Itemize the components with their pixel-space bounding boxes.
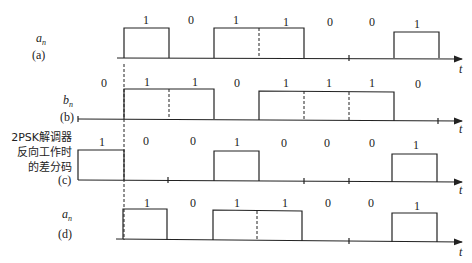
row-a-bit: 1 <box>283 15 289 29</box>
row-a-pulse-1 <box>124 28 169 58</box>
row-a-label: (a) <box>32 48 45 62</box>
row-c-waveform: 2PSK解调器 反向工作时 的差分码 (c) 1 0 0 1 0 0 0 1 t <box>11 130 463 197</box>
row-d-bit: 1 <box>144 196 150 210</box>
row-d-bit: 0 <box>368 196 374 210</box>
row-b-axis-label: t <box>459 122 463 136</box>
row-c-bit: 0 <box>369 136 375 150</box>
row-b-bit: 1 <box>144 75 150 89</box>
row-c-pulse-3 <box>392 154 437 182</box>
row-d-bit: 0 <box>190 196 196 210</box>
row-b-waveform: bn (b) 0 1 1 0 1 1 1 0 t <box>60 75 463 136</box>
row-c-axis-label: t <box>459 183 463 197</box>
row-a-bit: 0 <box>327 15 333 29</box>
row-b-bit: 0 <box>415 77 421 91</box>
row-a-bit: 0 <box>188 13 194 27</box>
row-b-bit: 1 <box>192 75 198 89</box>
row-b-time-axis <box>78 119 462 121</box>
row-b-label: (b) <box>60 110 74 124</box>
row-a-bit: 1 <box>233 13 239 27</box>
row-c-pulse-1 <box>78 150 124 180</box>
row-b-bit: 0 <box>234 76 240 90</box>
row-d-signal-label: an <box>62 207 72 223</box>
row-b-bit: 1 <box>369 76 375 90</box>
row-c-bit: 0 <box>281 136 287 150</box>
row-c-bit: 1 <box>99 135 105 149</box>
row-c-bit: 1 <box>234 135 240 149</box>
row-b-bit: 1 <box>326 76 332 90</box>
row-d-bit: 1 <box>414 199 420 213</box>
row-d-waveform: an (d) 1 0 1 1 0 0 1 t <box>58 196 463 259</box>
row-b-pulse-2 <box>259 91 394 121</box>
row-c-bit: 1 <box>413 138 419 152</box>
row-c-time-axis <box>78 180 462 182</box>
row-c-bit: 0 <box>190 134 196 148</box>
row-c-label: (c) <box>58 173 71 187</box>
row-d-axis-label: t <box>459 245 463 259</box>
row-c-signal-label-line: 的差分码 <box>28 160 72 174</box>
row-a-signal-label: an <box>36 31 46 47</box>
row-c-signal-label-line: 2PSK解调器 <box>11 130 72 144</box>
row-c-signal-label-line: 反向工作时 <box>17 145 72 159</box>
row-a-bit: 1 <box>414 17 420 31</box>
row-d-bit: 1 <box>282 196 288 210</box>
row-c-bit: 0 <box>143 134 149 148</box>
row-a-axis-label: t <box>459 62 463 76</box>
row-c-pulse-2 <box>214 151 259 181</box>
row-b-bit: 1 <box>283 76 289 90</box>
row-a-pulse-3 <box>394 32 439 58</box>
row-d-bit: 1 <box>234 196 240 210</box>
row-d-bit: 0 <box>325 196 331 210</box>
row-b-signal-label: bn <box>63 93 73 109</box>
row-a-time-axis <box>117 58 462 59</box>
row-a-bit: 1 <box>143 13 149 27</box>
row-a-waveform: an (a) 1 0 1 1 0 0 1 t <box>32 13 463 76</box>
differential-code-timing-diagram: an (a) 1 0 1 1 0 0 1 t bn (b) 0 1 1 0 1 … <box>0 0 472 263</box>
row-b-bit: 0 <box>101 76 107 90</box>
row-a-bit: 0 <box>369 15 375 29</box>
row-d-time-axis <box>116 239 462 242</box>
row-d-pulse-3 <box>392 213 437 242</box>
row-d-label: (d) <box>58 227 72 241</box>
row-d-pulse-1 <box>123 209 167 240</box>
row-c-bit: 0 <box>324 136 330 150</box>
